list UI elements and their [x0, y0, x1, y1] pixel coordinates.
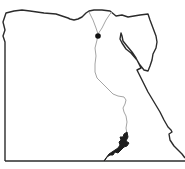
lake-nasser: [104, 132, 129, 161]
country-border: [3, 10, 185, 161]
nile-east-branch: [98, 12, 112, 34]
nile-river: [89, 12, 127, 134]
map-canvas: [0, 0, 185, 169]
egypt-map: [0, 0, 185, 169]
capital-marker: [95, 33, 101, 39]
